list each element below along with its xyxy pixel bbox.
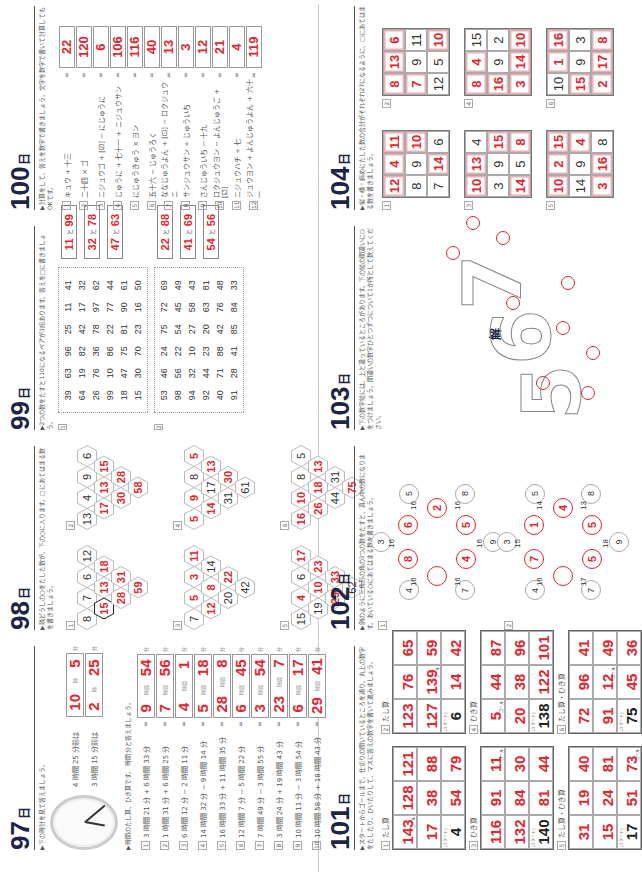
magic-cell: 3 (487, 175, 509, 197)
hex-value: 17 (95, 499, 113, 519)
equals-sign: = (199, 68, 207, 78)
grid-number: 41 (229, 340, 239, 362)
hex-value: 13 (95, 478, 113, 498)
expression-text: 3 時間 24 分 + 19 時間 43 分 (274, 730, 284, 838)
maze-cell: 96 (569, 665, 593, 699)
grid-number: 40 (215, 384, 225, 406)
instruction-text: ▶下の時計を見て答えましょう。 (38, 761, 45, 850)
answer-box: 120 (76, 26, 92, 68)
hex-value: 13 (95, 578, 113, 598)
magic-square-block: 11241189107146 (382, 108, 456, 210)
question-number: 5 (217, 841, 226, 850)
grid-number: 81 (201, 274, 211, 296)
section-heading: 103日 (328, 226, 355, 430)
start-label: (スタート) (530, 828, 536, 847)
goal-label: ゴール (434, 667, 440, 679)
answer-minutes: 25 (85, 659, 102, 676)
expression-text: ななじゅうよん + [⚀] − ロクジュウニ (159, 78, 179, 198)
magic-square-block: 51021514943168 (546, 108, 620, 210)
magic-cell: 6 (427, 131, 449, 153)
section-heading: 104日 (328, 6, 355, 210)
answer-hours: 6 (289, 704, 306, 712)
hex-value: 15 (95, 457, 113, 477)
grid-number: 53 (159, 384, 169, 406)
magic-cell: 15 (487, 131, 509, 153)
unit-label: 時間 (313, 681, 320, 691)
section-heading: 99日 (8, 226, 35, 430)
answer-hours: 5 (194, 704, 211, 712)
pair-value: 22 (159, 238, 171, 250)
hex-cell: 58 (128, 477, 148, 499)
triangle-sum: 13 (579, 501, 588, 510)
grid-number: 71 (215, 362, 225, 384)
pair-sum-puzzles: 1396396251141641982421732267636789762991… (58, 226, 244, 430)
answer-minutes: 5 (66, 659, 83, 667)
answer-box: 10時5 (66, 653, 84, 717)
question-number: 12 (249, 201, 258, 210)
maze-cell: 44 (481, 665, 505, 699)
magic-cell: 14 (427, 153, 449, 175)
maze-cell: 143ゴール (393, 815, 417, 849)
maze-cell: 121 (393, 747, 417, 781)
clock-block: 4 時間 25 分前は10時5分3 時間 15 分前は2時25分 (50, 646, 118, 850)
word-calc-row: 6五十六 − じゅうろく=40 (143, 6, 160, 210)
triangle-sum: 16 (409, 501, 418, 510)
magic-cell: 16 (547, 29, 569, 51)
maze-type: ひき算 (470, 701, 478, 722)
equals-sign: = (114, 68, 122, 78)
puzzle-number: 5 (546, 201, 555, 210)
hex-value: 8 (292, 467, 310, 487)
magic-cell: 9 (487, 153, 509, 175)
answer-box: 23時間7 (270, 654, 288, 718)
unit-label: 分 (161, 647, 168, 652)
magic-cell: 14 (509, 51, 531, 73)
hex-value: 6 (78, 446, 96, 466)
expression-text: さんじゅういち − 十九 (198, 78, 208, 198)
maze-cell: 116 (481, 815, 505, 849)
hex-value: 8 (185, 467, 203, 487)
equals-sign: = (275, 718, 283, 730)
unit-label: 時間 (294, 685, 301, 695)
answer-minutes: 8 (213, 660, 230, 668)
word-calc-row: 11ニジュウハチ ÷ 七=4 (228, 6, 245, 210)
answer-box: 12 (195, 26, 211, 68)
puzzle-number: 4 (464, 99, 473, 108)
day-number: 99 (8, 401, 32, 430)
star-diagram: 71455315514813918717416 (504, 468, 624, 618)
maze-cell: 17(スタート) (617, 815, 641, 849)
grid-number: 24 (159, 340, 169, 362)
mistake-circle (581, 386, 595, 400)
grid-number: 10 (105, 362, 115, 384)
equals-sign: = (161, 718, 169, 730)
magic-cell: 9 (569, 153, 591, 175)
answer-node: 4 (553, 498, 573, 518)
question-number: 8 (274, 841, 283, 850)
question-text: 3 時間 15 分前は (89, 717, 99, 787)
grid-number: 76 (91, 362, 101, 384)
answer-box: 7時間56 (156, 654, 174, 718)
grid-number: 90 (119, 296, 129, 318)
hex-value: 3 (185, 567, 203, 587)
hex-value: 5 (185, 588, 203, 608)
magic-cell: 9 (405, 153, 427, 175)
grid-number: 46 (159, 362, 169, 384)
word-calc-row: 3ニジュウゴ + [⚂] − にじゅうに=6 (92, 6, 109, 210)
answer-minutes: 7 (270, 660, 287, 668)
word-calc-row: 10ロクジュウヨン − よんじゅうご + [⚁]=21 (211, 6, 228, 210)
triangle-sum: 16 (409, 577, 418, 586)
maze-cell: 123 (393, 699, 417, 733)
answer-node: 4 (456, 549, 476, 569)
maze-cell: 91 (481, 781, 505, 815)
maze-cell: 88 (417, 747, 441, 781)
equals-sign: = (216, 68, 224, 78)
grid-number: 33 (229, 274, 239, 296)
maze-grid: 5ゴール4487203896138(スタート)122101 (480, 630, 554, 734)
answer-node: 1 (524, 515, 544, 535)
maze-type: たし算 (382, 817, 390, 838)
answer-box: 5時間18 (194, 654, 212, 718)
day-unit: 日 (335, 793, 352, 805)
day-number: 100 (8, 167, 32, 210)
expression-text: じゅうに + 七十一 + ニジュウサン (113, 78, 123, 198)
hex-value: 15 (292, 609, 310, 629)
magic-cell: 12 (427, 73, 449, 95)
